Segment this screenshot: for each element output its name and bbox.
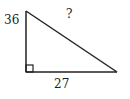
vertical-leg-label: 36 bbox=[4, 13, 19, 27]
hypotenuse-label: ? bbox=[66, 7, 72, 21]
right-angle-marker bbox=[26, 65, 33, 72]
triangle-diagram: 36 ? 27 bbox=[0, 0, 130, 99]
horizontal-leg-label: 27 bbox=[54, 77, 69, 91]
